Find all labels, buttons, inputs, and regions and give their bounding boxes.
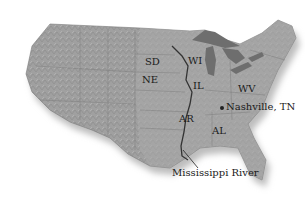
label-ne: NE	[142, 75, 158, 85]
label-ar: AR	[179, 114, 194, 124]
label-sd: SD	[145, 57, 160, 67]
nashville-marker	[220, 106, 224, 110]
label-wi: WI	[188, 56, 202, 66]
label-al: AL	[212, 126, 226, 136]
label-nashville: Nashville, TN	[226, 102, 295, 112]
label-il: IL	[193, 81, 204, 91]
map-figure: SD NE WI IL WV Nashville, TN AR AL Missi…	[0, 0, 305, 202]
label-wv: WV	[238, 84, 256, 94]
label-mississippi-river: Mississippi River	[172, 168, 259, 178]
